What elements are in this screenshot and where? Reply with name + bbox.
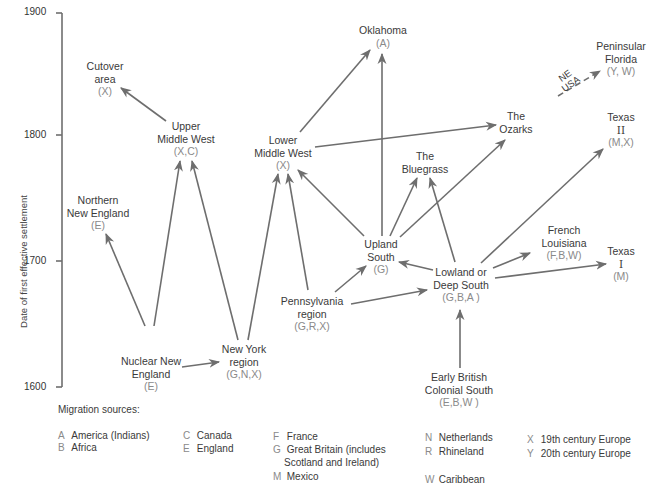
node-oklahoma: Oklahoma (A) [359,24,407,49]
node-lower-middle-west: Lower Middle West (X) [254,134,312,172]
node-northern-new-england: Northern New England (E) [67,194,129,232]
y-tick-1800: 1800 [24,129,46,140]
node-nuclear-new-england: Nuclear New England (E) [121,355,181,393]
legend-title: Migration sources: [58,404,140,415]
legend-item-e: E England [183,443,233,456]
legend-item-y: Y 20th century Europe [527,448,631,461]
legend-item-f: F France [273,431,318,444]
node-the-ozarks: The Ozarks [499,110,532,135]
legend-item-w: W Caribbean [425,474,485,487]
legend-item-g: G Great Britain (includes Scotland and I… [273,444,386,469]
node-early-british-colonial-south: Early British Colonial South (E,B,W ) [425,371,493,409]
node-peninsular-florida: Peninsular Florida (Y, W) [596,40,646,78]
legend-item-a: A America (Indians) [58,430,150,443]
settlement-migration-diagram: 1900 1800 1700 1600 Date of first effect… [0,0,651,496]
node-pennsylvania-region: Pennsylvania region (G,R,X) [281,295,343,333]
legend-item-r: R Rhineland [425,446,484,459]
node-the-bluegrass: The Bluegrass [402,150,449,175]
y-axis-label: Date of first effective settlement [18,187,29,337]
node-lowland-deep-south: Lowland or Deep South (G,B,A ) [433,266,488,304]
node-upland-south: Upland South (G) [364,238,397,276]
node-upper-middle-west: Upper Middle West (X,C) [157,120,215,158]
y-tick-1900: 1900 [24,6,46,17]
node-new-york-region: New York region (G,N,X) [222,343,266,381]
legend-item-c: C Canada [183,430,232,443]
legend-item-b: B Africa [58,442,97,455]
legend-item-x: X 19th century Europe [527,434,631,447]
node-texas-2: Texas II (M,X) [607,111,634,149]
legend-item-m: M Mexico [273,471,318,484]
node-cutover-area: Cutover area (X) [87,60,124,98]
node-texas-1: Texas I (M) [607,245,634,283]
node-french-louisiana: French Louisiana (F,B,W) [542,224,587,262]
y-tick-1600: 1600 [24,381,46,392]
legend-item-n: N Netherlands [425,432,493,445]
